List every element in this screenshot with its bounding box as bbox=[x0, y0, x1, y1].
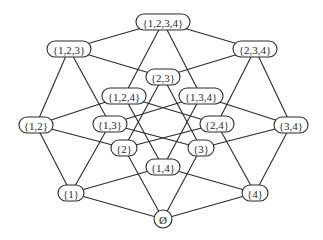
edge-24-4 bbox=[217, 124, 255, 193]
node-12: {1,2} bbox=[19, 117, 53, 133]
node-1: {1} bbox=[58, 185, 84, 201]
node-label: {1,3} bbox=[98, 119, 122, 131]
node-label: {2,4} bbox=[205, 119, 229, 131]
node-24: {2,4} bbox=[200, 116, 234, 132]
node-label: {3} bbox=[193, 143, 209, 155]
node-label: {1,4} bbox=[151, 162, 175, 174]
node-23: {2,3} bbox=[146, 69, 180, 85]
node-2: {2} bbox=[111, 140, 137, 156]
node-14: {1,4} bbox=[146, 159, 180, 175]
node-label: {1} bbox=[63, 188, 79, 200]
edge-12-1 bbox=[36, 125, 71, 193]
edge-123-13 bbox=[69, 49, 110, 124]
node-34: {3,4} bbox=[274, 117, 308, 133]
edge-13-1 bbox=[71, 124, 110, 193]
node-label: {1,2,3} bbox=[53, 44, 86, 56]
node-134: {1,3,4} bbox=[179, 88, 223, 104]
nodes: {1,2,3,4}{1,2,3}{2,3,4}{2,3}{1,2,4}{1,3,… bbox=[19, 14, 308, 228]
node-label: {1,2} bbox=[24, 120, 48, 132]
node-label: {2,3} bbox=[151, 72, 175, 84]
edge-234-34 bbox=[255, 49, 291, 125]
node-label: {1,2,4} bbox=[108, 91, 141, 103]
edge-1-empty bbox=[71, 193, 163, 219]
edge-123-12 bbox=[36, 49, 69, 125]
node-123: {1,2,3} bbox=[47, 41, 91, 57]
node-label: {2,3,4} bbox=[239, 44, 272, 56]
edge-234-24 bbox=[217, 49, 255, 124]
node-124: {1,2,4} bbox=[102, 88, 146, 104]
node-1234: {1,2,3,4} bbox=[136, 14, 190, 30]
edge-34-4 bbox=[255, 125, 291, 193]
node-label: {1,3,4} bbox=[185, 91, 218, 103]
node-empty: Ø bbox=[154, 210, 172, 228]
node-13: {1,3} bbox=[93, 116, 127, 132]
edge-4-empty bbox=[163, 193, 255, 219]
node-label: {4} bbox=[247, 188, 263, 200]
node-label: {3,4} bbox=[279, 120, 303, 132]
node-234: {2,3,4} bbox=[233, 41, 277, 57]
node-3: {3} bbox=[188, 140, 214, 156]
node-label: Ø bbox=[159, 214, 167, 226]
hasse-diagram: {1,2,3,4}{1,2,3}{2,3,4}{2,3}{1,2,4}{1,3,… bbox=[0, 0, 323, 240]
node-label: {1,2,3,4} bbox=[143, 17, 184, 29]
node-label: {2} bbox=[116, 143, 132, 155]
node-4: {4} bbox=[242, 185, 268, 201]
